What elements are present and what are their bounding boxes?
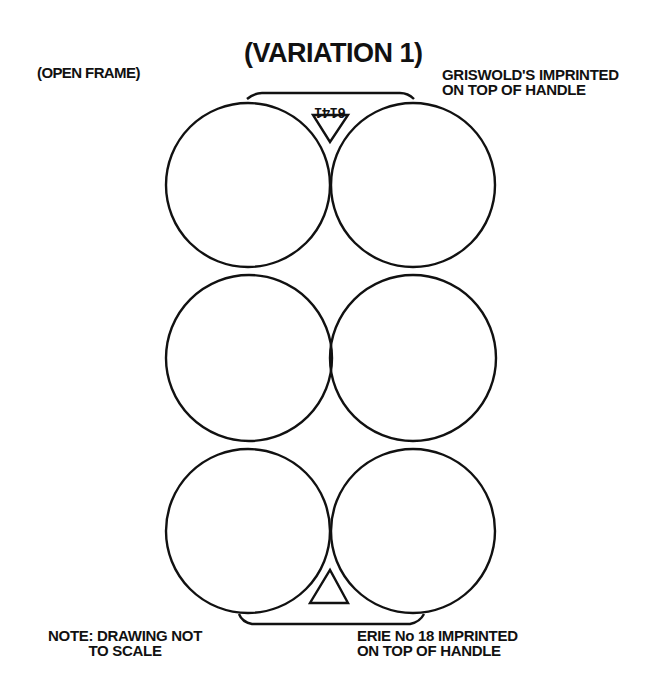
page-title: (VARIATION 1) — [244, 38, 423, 68]
frame-type-label: (OPEN FRAME) — [37, 65, 140, 80]
scale-note-line1: NOTE: DRAWING NOT — [48, 628, 202, 643]
scale-note-line2: TO SCALE — [48, 643, 202, 658]
bottom-handle-annotation-line1: ERIE No 18 IMPRINTED — [357, 628, 518, 643]
bottom-handle-annotation-line2: ON TOP OF HANDLE — [357, 643, 518, 658]
top-handle-annotation: GRISWOLD'S IMPRINTED ON TOP OF HANDLE — [442, 67, 619, 97]
cup-r3-c2 — [331, 449, 495, 613]
bottom-handle — [239, 614, 424, 624]
cup-r1-c2 — [331, 103, 495, 267]
cup-r3-c1 — [166, 449, 330, 613]
top-handle — [247, 93, 414, 99]
bottom-triangle-marker — [310, 570, 348, 603]
cup-r2-c2 — [330, 275, 496, 441]
handle-marking-text: 6141 — [314, 105, 345, 121]
muffin-pan-drawing: 6141 — [0, 0, 660, 685]
bottom-handle-annotation: ERIE No 18 IMPRINTED ON TOP OF HANDLE — [357, 628, 518, 658]
top-handle-annotation-line2: ON TOP OF HANDLE — [442, 82, 619, 97]
top-handle-annotation-line1: GRISWOLD'S IMPRINTED — [442, 67, 619, 82]
cup-r1-c1 — [166, 103, 330, 267]
cup-r2-c1 — [166, 275, 332, 441]
scale-note: NOTE: DRAWING NOT TO SCALE — [48, 628, 202, 658]
